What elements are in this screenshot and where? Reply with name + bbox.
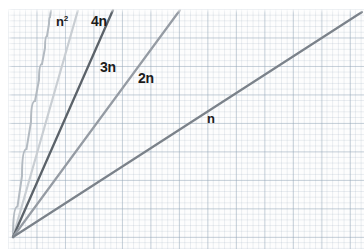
curve-label-4n: 4n [91,14,107,28]
curve-label-n-squared-base: n [56,14,64,29]
curve-label-n-squared-exponent: 2 [64,14,68,23]
line-3n [13,10,113,237]
line-2n [13,10,180,237]
line-n [13,12,362,237]
curve-label-3n: 3n [100,60,116,74]
curve-label-n-squared: n2 [56,15,68,28]
curve-label-n: n [207,112,215,125]
plot-lines-svg [0,0,364,249]
growth-rate-chart-figure: n2 4n 3n 2n n [0,0,364,249]
curve-label-2n: 2n [138,71,154,85]
